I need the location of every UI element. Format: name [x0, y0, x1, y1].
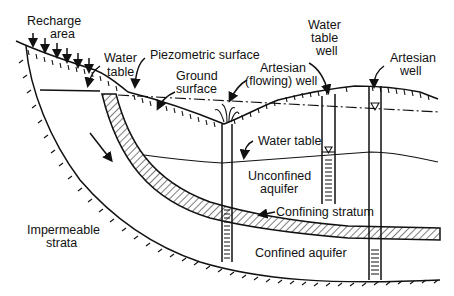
- label-piezometric-surface: Piezometric surface: [150, 48, 260, 62]
- label-water-table-left-2: table: [107, 65, 134, 79]
- label-recharge-area: Recharge: [27, 14, 81, 28]
- label-unconfined-aquifer-2: aquifer: [260, 182, 298, 196]
- label-unconfined-aquifer: Unconfined: [248, 169, 311, 183]
- label-artesian-well: Artesian: [390, 51, 436, 65]
- label-recharge-area-2: area: [50, 27, 75, 41]
- flow-arrow: [90, 133, 111, 160]
- label-impermeable-strata-2: strata: [46, 236, 77, 250]
- label-water-table-well-3: well: [315, 44, 338, 58]
- label-artesian-flowing-well-2: (flowing) well: [245, 74, 317, 88]
- label-ground-surface-2: surface: [176, 82, 217, 96]
- artesian-well: [369, 86, 381, 280]
- water-table-well: [322, 94, 335, 204]
- label-ground-surface: Ground: [176, 69, 218, 83]
- label-confining-stratum: Confining stratum: [276, 205, 374, 219]
- label-confined-aquifer: Confined aquifer: [255, 246, 347, 260]
- label-water-table: Water table: [258, 134, 322, 148]
- label-artesian-well-2: well: [399, 64, 422, 78]
- label-artesian-flowing-well: Artesian: [260, 61, 306, 75]
- groundwater-diagram: Recharge area Water table Piezometric su…: [0, 0, 454, 296]
- artesian-flowing-well: [215, 104, 239, 262]
- label-impermeable-strata: Impermeable: [27, 223, 100, 237]
- label-water-table-well: Water: [308, 18, 341, 32]
- label-water-table-well-2: table: [311, 31, 338, 45]
- label-water-table-left: Water: [104, 51, 137, 65]
- confining-stratum-band: [102, 94, 440, 240]
